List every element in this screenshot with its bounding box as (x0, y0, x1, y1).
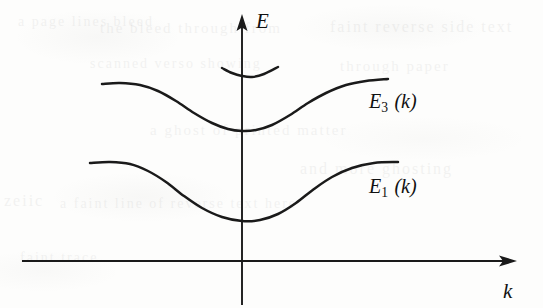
band-structure-figure: a page lines bleedthe bleed through from… (0, 0, 543, 308)
curve-label-band-1-index: 1 (381, 185, 389, 200)
curve-label-band-1: E1 (k) (369, 176, 417, 196)
curve-band-3 (102, 79, 388, 131)
curve-label-band-3-symbol: E (369, 90, 381, 112)
wavevector-axis-label: k (503, 281, 512, 302)
curve-label-band-1-symbol: E (369, 175, 381, 197)
curve-label-band-3-argument: (k) (394, 90, 416, 112)
curve-label-band-1-argument: (k) (394, 175, 416, 197)
curve-label-band-3-index: 3 (381, 100, 389, 115)
wavevector-axis (22, 256, 517, 267)
curve-band-1 (90, 162, 398, 221)
energy-axis-label: E (256, 11, 269, 32)
plot-canvas (0, 0, 543, 308)
curve-label-band-3: E3 (k) (369, 91, 417, 111)
curve-band-upper-fragment (222, 67, 278, 77)
